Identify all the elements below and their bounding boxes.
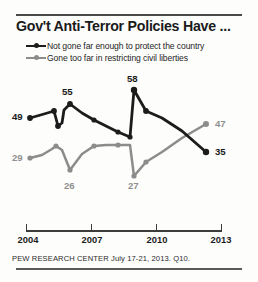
bottom-divider [16, 268, 242, 270]
x-axis: 2004 2007 2010 2013 [0, 222, 258, 248]
value-label-dark-start: 49 [12, 111, 23, 122]
value-label-gray-2010: 27 [128, 180, 139, 191]
chart-page: Gov't Anti-Terror Policies Have ... Not … [0, 0, 258, 282]
x-axis-label-2007: 2007 [82, 234, 103, 245]
x-axis-tick-2013 [221, 224, 222, 231]
value-label-dark-2010: 58 [127, 73, 138, 84]
x-axis-label-2010: 2010 [147, 234, 168, 245]
legend-swatch-gray-icon [26, 53, 46, 62]
x-axis-label-2004: 2004 [18, 234, 39, 245]
legend-label-gone-too-far: Gone too far in restricting civil libert… [47, 52, 188, 64]
x-axis-tick-2010 [156, 224, 157, 231]
page-title: Gov't Anti-Terror Policies Have ... [16, 18, 250, 34]
legend-item-gone-too-far: Gone too far in restricting civil libert… [26, 51, 252, 63]
legend-label-not-gone-far-enough: Not gone far enough to protect the count… [47, 40, 204, 52]
value-label-gray-low: 26 [64, 180, 75, 191]
x-axis-tick-2007 [91, 224, 92, 231]
value-label-gray-end: 47 [215, 118, 226, 129]
x-axis-line [26, 230, 222, 232]
source-note: PEW RESEARCH CENTER July 17-21, 2013. Q1… [12, 254, 190, 263]
x-axis-tick-2004 [26, 224, 27, 231]
x-axis-label-2013: 2013 [211, 234, 232, 245]
value-label-dark-end: 35 [215, 146, 226, 157]
legend-item-not-gone-far-enough: Not gone far enough to protect the count… [26, 39, 252, 51]
legend-swatch-dark-icon [26, 41, 46, 50]
top-divider [16, 14, 242, 16]
plot-area: 49 55 58 35 29 26 27 47 [0, 70, 258, 222]
value-label-dark-peak: 55 [62, 86, 73, 97]
chart-legend: Not gone far enough to protect the count… [26, 39, 252, 63]
value-label-gray-start: 29 [12, 152, 23, 163]
